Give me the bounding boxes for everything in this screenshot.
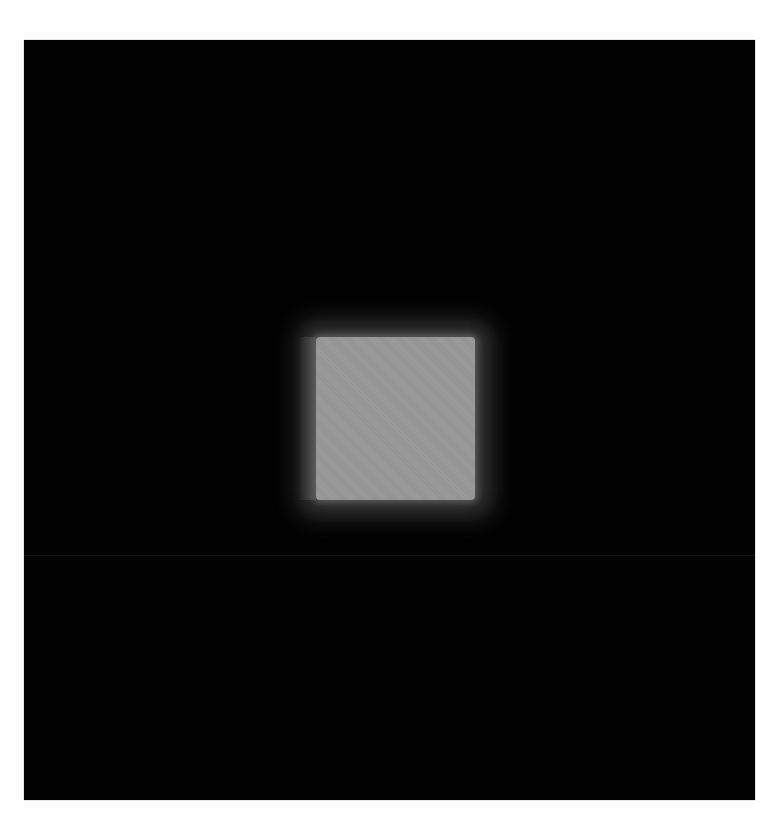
dark-field <box>24 40 755 800</box>
bright-square <box>316 337 475 500</box>
horizontal-seam <box>24 555 755 556</box>
image-canvas <box>0 0 771 829</box>
